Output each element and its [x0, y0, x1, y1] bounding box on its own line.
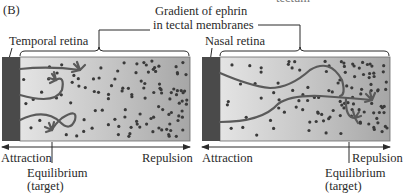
nasal-target-label: (target): [325, 179, 362, 193]
gradient-label-line1: Gradient of ephrin: [155, 4, 247, 18]
temporal-attraction-label: Attraction: [1, 151, 52, 165]
cropped-top-label: tectum: [276, 0, 310, 5]
panel-label: (B): [3, 3, 20, 17]
temporal-tectum-panel: [2, 57, 190, 141]
nasal-tectum-panel: [202, 57, 390, 141]
nasal-equilibrium-label: Equilibrium: [325, 166, 385, 180]
temporal-repulsion-label: Repulsion: [142, 151, 193, 165]
temporal-target-label: (target): [27, 179, 64, 193]
axis-arrows: [2, 142, 390, 163]
nasal-retina-bar: [202, 57, 220, 141]
nasal-retina-label: Nasal retina: [205, 34, 265, 48]
temporal-equilibrium-label: Equilibrium: [27, 166, 87, 180]
temporal-retina-bar: [2, 57, 20, 141]
nasal-repulsion-label: Repulsion: [352, 151, 403, 165]
nasal-attraction-label: Attraction: [202, 151, 253, 165]
gradient-label-line2: in tectal membranes: [153, 18, 254, 32]
temporal-retina-label: Temporal retina: [9, 34, 88, 48]
